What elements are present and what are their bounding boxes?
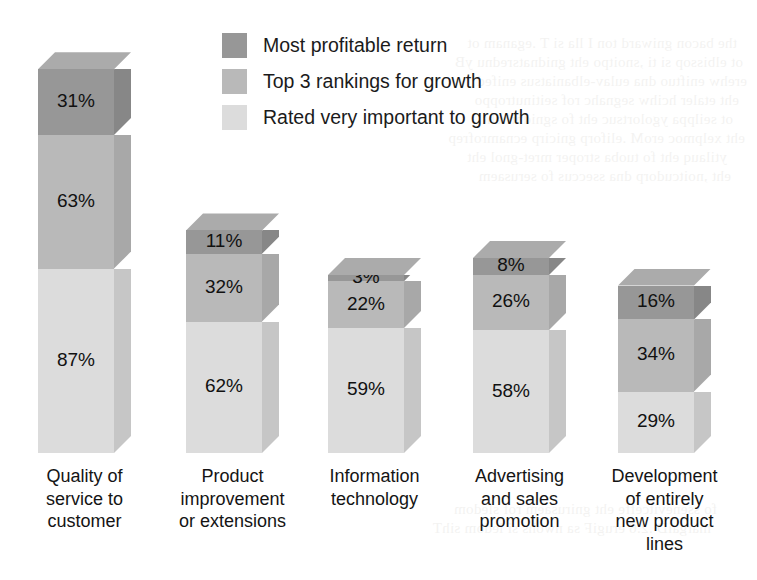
bar-segment-side-face [549, 258, 566, 275]
category-label: Quality ofservice tocustomer [10, 465, 159, 533]
bar-segment-side-face [694, 286, 711, 320]
category-label-line: Quality of [10, 465, 159, 488]
bar-segment-side-face [262, 322, 279, 453]
bar-segment-side-face [404, 281, 421, 328]
bar-segment[interactable]: 31% [38, 69, 114, 135]
bar-top-face [328, 258, 421, 275]
category-label-line: Advertising [445, 465, 594, 488]
bar-segment-side-face [694, 392, 711, 453]
bar-segment-side-face [262, 254, 279, 322]
bar-segment-side-face [262, 230, 279, 253]
category-label-line: technology [300, 488, 449, 511]
bar-segment[interactable]: 63% [38, 135, 114, 269]
bar-segment-value-label: 59% [328, 378, 404, 400]
bar-segment-value-label: 22% [328, 293, 404, 315]
bar-segment-value-label: 63% [38, 190, 114, 212]
bar-segment-value-label: 26% [473, 290, 549, 312]
bar-segment-side-face [549, 330, 566, 453]
category-label-line: new product [590, 510, 739, 533]
category-label: Advertisingand salespromotion [445, 465, 594, 533]
bar-segment[interactable]: 87% [38, 269, 114, 453]
bar-segment-value-label: 34% [618, 343, 694, 365]
bar-segment[interactable]: 11% [186, 230, 262, 253]
bar-group[interactable]: 58%26%8% [473, 0, 566, 453]
bar-segment[interactable]: 58% [473, 330, 549, 453]
bar-segment[interactable]: 22% [328, 281, 404, 328]
category-label-line: and sales [445, 488, 594, 511]
bar-segment-value-label: 31% [38, 90, 114, 112]
bar-segment-value-label: 29% [618, 410, 694, 432]
bar-segment-value-label: 32% [186, 276, 262, 298]
bar-segment-value-label: 62% [186, 375, 262, 397]
category-label-line: promotion [445, 510, 594, 533]
bar-segment-side-face [549, 275, 566, 330]
bar-segment[interactable]: 26% [473, 275, 549, 330]
bar-segment-side-face [114, 69, 131, 135]
bar-group[interactable]: 87%63%31% [38, 0, 131, 453]
bar-segment-value-label: 16% [618, 290, 694, 312]
category-label: Informationtechnology [300, 465, 449, 510]
bar-segment-value-label: 58% [473, 380, 549, 402]
category-label-line: Development [590, 465, 739, 488]
bar-group[interactable]: 29%34%16% [618, 0, 711, 453]
bar-segment-side-face [114, 269, 131, 453]
bar-segment[interactable]: 62% [186, 322, 262, 453]
category-label-line: lines [590, 533, 739, 556]
bar-group[interactable]: 59%22%3% [328, 0, 421, 453]
category-label-line: or extensions [158, 510, 307, 533]
bar-segment[interactable]: 16% [618, 286, 694, 320]
category-label: Productimprovementor extensions [158, 465, 307, 533]
category-label-line: of entirely [590, 488, 739, 511]
bar-top-face [186, 213, 279, 230]
bar-segment-value-label: 11% [186, 230, 262, 252]
bar-segment-side-face [404, 328, 421, 453]
bar-segment[interactable]: 29% [618, 392, 694, 453]
bar-group[interactable]: 62%32%11% [186, 0, 279, 453]
bar-segment[interactable]: 59% [328, 328, 404, 453]
bar-segment[interactable]: 32% [186, 254, 262, 322]
bar-segment[interactable]: 3% [328, 275, 404, 281]
category-label: Developmentof entirelynew productlines [590, 465, 739, 555]
bar-segment-value-label: 87% [38, 349, 114, 371]
bar-segment-side-face [694, 319, 711, 391]
category-label-line: improvement [158, 488, 307, 511]
stacked-column-chart: Most profitable return Top 3 rankings fo… [0, 0, 757, 580]
bar-segment[interactable]: 34% [618, 319, 694, 391]
bar-segment[interactable]: 8% [473, 258, 549, 275]
bar-top-face [38, 52, 131, 69]
bar-segment-side-face [114, 135, 131, 269]
category-label-line: customer [10, 510, 159, 533]
bar-top-face [618, 269, 711, 286]
category-label-line: service to [10, 488, 159, 511]
category-label-line: Product [158, 465, 307, 488]
category-label-line: Information [300, 465, 449, 488]
bar-top-face [473, 241, 566, 258]
